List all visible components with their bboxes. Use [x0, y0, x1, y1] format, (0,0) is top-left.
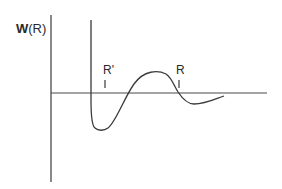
potential-diagram: W(R) R' R [0, 0, 282, 189]
y-axis-label-text: W(R) [16, 21, 46, 36]
r-prime-label: R' [103, 63, 114, 77]
r-label: R [176, 63, 185, 77]
